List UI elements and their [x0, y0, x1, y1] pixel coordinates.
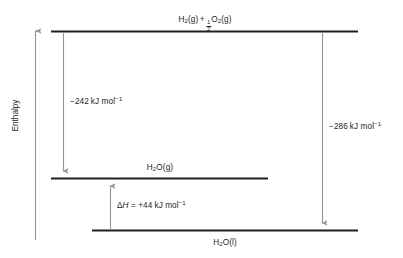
reactant-species-1: H2(g): [178, 15, 198, 24]
transition-label-formation-liquid: −286kJ mol−1: [329, 121, 381, 131]
transition-label-vaporisation: ΔH = +44kJ mol−1: [117, 200, 186, 210]
level-label-water-liquid: H2O(l): [213, 238, 237, 248]
enthalpy-diagram: Enthalpy H2(g)+12O2(g) H2O(g) H2O(l) −24…: [0, 0, 403, 258]
stoichiometric-fraction-one-half: 12: [207, 20, 211, 33]
level-label-reactants: H2(g)+12O2(g): [178, 15, 231, 33]
axis-label-enthalpy: Enthalpy: [11, 86, 20, 146]
level-label-water-gas: H2O(g): [147, 163, 173, 173]
reactant-plus-sign: +: [198, 15, 206, 24]
reactant-species-2: O2(g): [211, 15, 231, 24]
transition-label-formation-gas: −242kJ mol−1: [70, 96, 122, 106]
